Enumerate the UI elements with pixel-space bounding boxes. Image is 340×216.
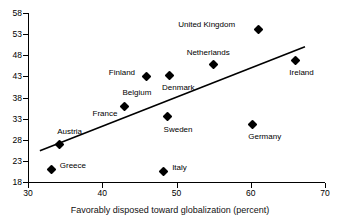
y-tick-mark xyxy=(23,140,28,141)
data-point-label: Netherlands xyxy=(187,49,230,57)
y-tick-label: 23 xyxy=(2,157,22,166)
data-point-marker xyxy=(290,55,300,65)
data-point-marker xyxy=(120,102,130,112)
data-point-label: Denmark xyxy=(162,84,194,92)
x-tick-label: 60 xyxy=(239,189,263,198)
data-point-marker xyxy=(142,71,152,81)
y-tick-label: 33 xyxy=(2,115,22,124)
data-point-marker xyxy=(164,71,174,81)
y-tick-label: 38 xyxy=(2,94,22,103)
x-tick-label: 30 xyxy=(16,189,40,198)
y-tick-mark xyxy=(23,55,28,56)
y-tick-mark xyxy=(23,161,28,162)
x-tick-label: 40 xyxy=(90,189,114,198)
y-tick-mark xyxy=(23,76,28,77)
y-axis-line xyxy=(28,13,29,183)
data-point-marker xyxy=(163,112,173,122)
trend-line xyxy=(0,0,340,216)
y-tick-label: 58 xyxy=(2,9,22,18)
data-point-label: United Kingdom xyxy=(178,21,235,29)
data-point-marker xyxy=(158,166,168,176)
x-tick-label: 70 xyxy=(313,189,337,198)
x-axis-title: Favorably disposed toward globalization … xyxy=(0,205,340,215)
data-point-marker xyxy=(209,60,219,70)
y-tick-mark xyxy=(23,34,28,35)
data-point-label: Sweden xyxy=(164,126,193,134)
y-tick-mark xyxy=(23,98,28,99)
data-point-label: Belgium xyxy=(123,89,152,97)
data-point-label: Ireland xyxy=(289,69,313,77)
data-point-marker xyxy=(247,119,257,129)
data-point-marker xyxy=(54,140,64,150)
data-point-label: Italy xyxy=(172,164,187,172)
data-point-label: Austria xyxy=(57,128,82,136)
y-tick-label: 18 xyxy=(2,178,22,187)
data-point-marker xyxy=(253,25,263,35)
y-tick-label: 43 xyxy=(2,72,22,81)
scatter-chart: 1823283338434853583040506070 GreeceAustr… xyxy=(0,0,340,216)
data-point-marker xyxy=(47,164,57,174)
data-point-label: Germany xyxy=(248,133,281,141)
data-point-label: France xyxy=(93,110,118,118)
x-tick-label: 50 xyxy=(165,189,189,198)
y-tick-label: 48 xyxy=(2,51,22,60)
data-point-label: Greece xyxy=(60,162,86,170)
y-tick-label: 53 xyxy=(2,30,22,39)
y-tick-label: 28 xyxy=(2,136,22,145)
y-tick-mark xyxy=(23,119,28,120)
y-tick-mark xyxy=(23,13,28,14)
data-point-label: Finland xyxy=(109,69,135,77)
